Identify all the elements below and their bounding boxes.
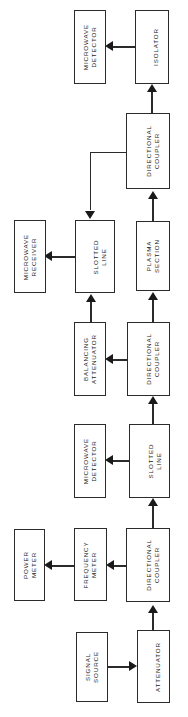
block-directional-coupler-mid[interactable]: DIRECTIONAL COUPLER	[127, 322, 170, 396]
block-directional-coupler-top[interactable]: DIRECTIONAL COUPLER	[126, 113, 170, 189]
arrowhead-to-coupler-bottom	[148, 605, 158, 613]
arrowhead-to-slotted-line-upper	[85, 211, 95, 219]
wire-coupler-bottom-to-slotted-line-lower	[152, 506, 153, 528]
block-attenuator[interactable]: ATTENUATOR	[137, 630, 170, 703]
block-frequency-meter[interactable]: FREQUENCY METER	[74, 528, 107, 601]
arrowhead-to-attenuator	[129, 661, 137, 671]
block-label: PLASMA SECTION	[145, 239, 161, 273]
wire-coupler-top-to-isolator	[151, 92, 152, 114]
block-label: SIGNAL SOURCE	[84, 651, 100, 683]
block-slotted-line-upper[interactable]: SLOTTED LINE	[75, 220, 115, 293]
block-label: MICROWAVE DETECTOR	[82, 438, 98, 484]
block-label: BALANCING ATTENUATOR	[82, 334, 98, 384]
arrowhead-to-microwave-detector-lower	[105, 455, 113, 465]
arrowhead-to-coupler-top	[148, 191, 158, 199]
block-label: MICROWAVE DETECTOR	[82, 24, 98, 70]
block-microwave-receiver[interactable]: MICROWAVE RECEIVER	[14, 220, 46, 293]
wire-balancing-attenuator-to-slotted-line	[90, 302, 91, 324]
block-label: DIRECTIONAL COUPLER	[145, 539, 161, 591]
block-diagram-canvas: MICROWAVE DETECTOR ISOLATOR DIRECTIONAL …	[0, 0, 188, 717]
block-label: FREQUENCY METER	[83, 541, 99, 588]
wire-isolator-to-microwave-detector	[113, 46, 136, 47]
block-label: MICROWAVE RECEIVER	[22, 233, 38, 279]
arrowhead-to-coupler-mid	[148, 396, 158, 404]
block-label: POWER METER	[21, 551, 37, 579]
block-slotted-line-lower[interactable]: SLOTTED LINE	[129, 424, 170, 498]
block-microwave-detector-top[interactable]: MICROWAVE DETECTOR	[74, 10, 106, 84]
arrowhead-to-microwave-detector-top	[105, 41, 113, 51]
arrowhead-to-power-meter	[44, 560, 52, 570]
block-label: ATTENUATOR	[154, 642, 162, 692]
arrowhead-to-isolator	[147, 84, 157, 92]
block-label: SLOTTED LINE	[93, 239, 109, 274]
arrowhead-to-balancing-attenuator	[105, 354, 113, 364]
arrowhead-to-plasma-section	[148, 292, 158, 300]
block-plasma-section[interactable]: PLASMA SECTION	[136, 221, 170, 291]
block-label: DIRECTIONAL COUPLER	[145, 333, 161, 385]
block-balancing-attenuator[interactable]: BALANCING ATTENUATOR	[74, 322, 106, 396]
block-microwave-detector-lower[interactable]: MICROWAVE DETECTOR	[74, 424, 106, 498]
wire-attenuator-to-coupler-bottom	[152, 613, 153, 631]
wire-frequency-meter-to-power-meter	[52, 565, 75, 566]
block-label: ISOLATOR	[152, 28, 160, 66]
wire-slotted-line-lower-to-coupler-mid	[152, 404, 153, 426]
wire-plasma-to-coupler-top	[152, 199, 153, 222]
block-label: DIRECTIONAL COUPLER	[145, 125, 161, 177]
arrowhead-to-slotted-line-upper-bottom	[86, 294, 96, 302]
wire-signal-source-to-attenuator	[108, 666, 130, 667]
block-label: SLOTTED LINE	[147, 444, 163, 479]
block-signal-source[interactable]: SIGNAL SOURCE	[76, 632, 108, 702]
block-directional-coupler-bottom[interactable]: DIRECTIONAL COUPLER	[126, 528, 170, 602]
block-isolator[interactable]: ISOLATOR	[135, 10, 169, 84]
wire-coupler-top-to-slotted-line-v	[90, 152, 91, 210]
arrowhead-to-frequency-meter	[106, 560, 114, 570]
arrowhead-to-slotted-line-lower	[148, 498, 158, 506]
wire-coupler-top-to-slotted-line-h	[90, 152, 128, 153]
block-power-meter[interactable]: POWER METER	[14, 529, 45, 601]
wire-coupler-mid-to-plasma	[152, 300, 153, 322]
